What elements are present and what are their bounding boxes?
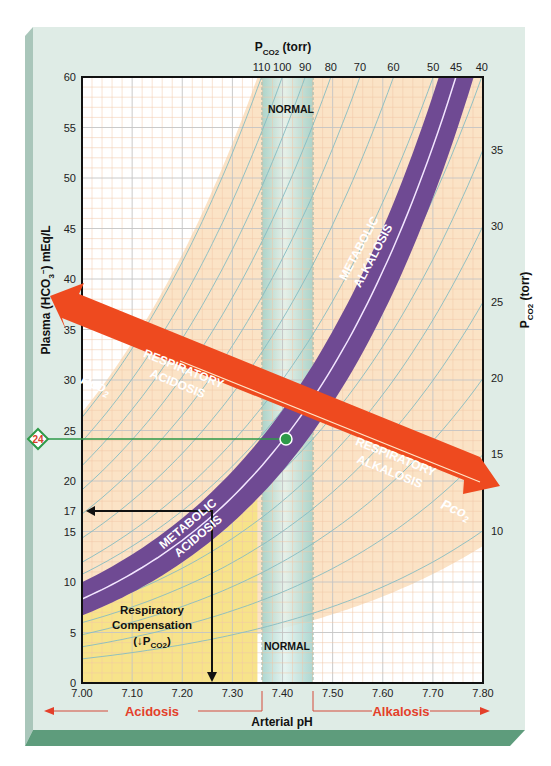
svg-text:20: 20 — [64, 475, 76, 487]
svg-text:Respiratory: Respiratory — [120, 604, 185, 616]
svg-text:25: 25 — [64, 425, 76, 437]
svg-text:7.30: 7.30 — [222, 687, 243, 699]
svg-text:5: 5 — [70, 627, 76, 639]
svg-text:7.00: 7.00 — [71, 687, 92, 699]
svg-text:70: 70 — [354, 61, 366, 73]
svg-text:45: 45 — [450, 61, 462, 73]
svg-text:35: 35 — [64, 324, 76, 336]
svg-text:30: 30 — [491, 220, 503, 232]
svg-text:24: 24 — [32, 434, 44, 445]
normal-label-top: NORMAL — [268, 103, 315, 115]
svg-text:50: 50 — [427, 61, 439, 73]
svg-text:45: 45 — [64, 223, 76, 235]
svg-text:40: 40 — [64, 273, 76, 285]
normal-label-bottom: NORMAL — [264, 640, 311, 652]
svg-text:55: 55 — [64, 122, 76, 134]
svg-text:7.60: 7.60 — [372, 687, 393, 699]
nomogram-figure: 24 NORMAL NORMAL METABOLIC ALKALOSIS MET… — [0, 0, 551, 766]
svg-text:20: 20 — [491, 372, 503, 384]
svg-text:10: 10 — [491, 525, 503, 537]
svg-text:25: 25 — [491, 296, 503, 308]
svg-text:15: 15 — [491, 448, 503, 460]
svg-text:7.20: 7.20 — [172, 687, 193, 699]
svg-text:40: 40 — [476, 61, 488, 73]
svg-text:17: 17 — [64, 505, 76, 517]
svg-text:50: 50 — [64, 172, 76, 184]
svg-text:7.10: 7.10 — [121, 687, 142, 699]
svg-text:7.40: 7.40 — [272, 687, 293, 699]
svg-text:35: 35 — [491, 144, 503, 156]
svg-text:Acidosis: Acidosis — [125, 704, 179, 719]
svg-text:30: 30 — [64, 374, 76, 386]
svg-text:60: 60 — [64, 71, 76, 83]
svg-text:80: 80 — [325, 61, 337, 73]
svg-text:15: 15 — [64, 526, 76, 538]
svg-text:Compensation: Compensation — [112, 619, 192, 631]
svg-text:7.50: 7.50 — [322, 687, 343, 699]
svg-text:60: 60 — [387, 61, 399, 73]
svg-text:7.80: 7.80 — [472, 687, 493, 699]
normal-point — [280, 433, 292, 445]
svg-text:90: 90 — [299, 61, 311, 73]
svg-text:7.70: 7.70 — [422, 687, 443, 699]
svg-text:100: 100 — [273, 61, 291, 73]
x-axis-ticks: 7.007.107.207.307.407.507.607.707.80 — [71, 687, 493, 699]
x-axis-title: Arterial pH — [251, 715, 312, 729]
svg-text:10: 10 — [64, 576, 76, 588]
svg-text:110: 110 — [253, 61, 271, 73]
svg-text:Alkalosis: Alkalosis — [372, 704, 429, 719]
